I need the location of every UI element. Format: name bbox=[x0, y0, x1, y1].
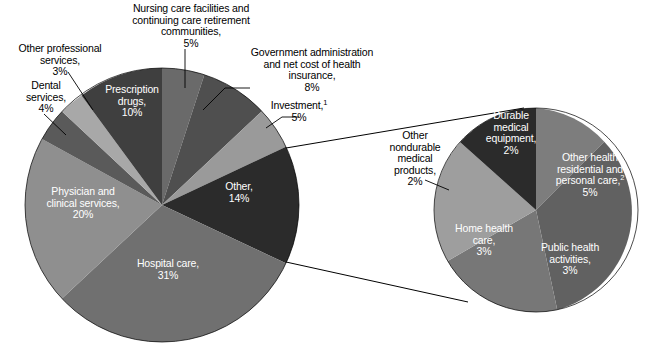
label-government-administration: Government administration and net cost o… bbox=[222, 47, 402, 93]
label-prescription-drugs: Prescription drugs, 10% bbox=[85, 84, 179, 119]
label-investment-text: Investment, bbox=[271, 99, 324, 111]
label-dental-services: Dental services, 4% bbox=[6, 80, 86, 115]
label-other-health-value: 5% bbox=[583, 186, 598, 198]
pie-chart-figure: Nursing care facilities and continuing c… bbox=[0, 0, 648, 351]
label-other-health-line2: personal care, bbox=[556, 174, 620, 186]
label-other-health-residential-personal-care: Other health residential andpersonal car… bbox=[536, 152, 644, 198]
label-home-health-care: Home health care, 3% bbox=[446, 223, 522, 258]
label-investment-value: 5% bbox=[292, 111, 307, 123]
connector-lower bbox=[286, 262, 468, 302]
label-other-health-line1: Other health residential and bbox=[557, 151, 623, 175]
label-public-health-activities: Public health activities, 3% bbox=[527, 242, 613, 277]
label-other: Other, 14% bbox=[206, 181, 272, 204]
label-other-nondurable-medical-products: Other nondurable medical products, 2% bbox=[369, 130, 461, 188]
label-other-health-footnote: 2 bbox=[620, 173, 624, 182]
label-hospital-care: Hospital care, 31% bbox=[108, 258, 228, 281]
label-other-professional-services: Other professional services, 3% bbox=[2, 43, 118, 78]
label-investment: Investment,15% bbox=[245, 100, 353, 123]
label-durable-medical-equipment: Durable medical equipment, 2% bbox=[473, 110, 549, 156]
label-physician-clinical-services: Physician and clinical services, 20% bbox=[28, 186, 138, 221]
label-investment-footnote: 1 bbox=[323, 98, 327, 107]
